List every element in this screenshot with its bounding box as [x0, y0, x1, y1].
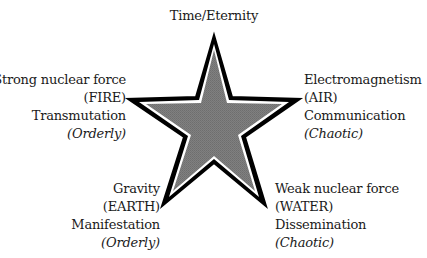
- upper-right-point-label: Electromagnetism (AIR) Communication (Ch…: [304, 71, 422, 143]
- element-text: (FIRE): [0, 89, 126, 107]
- force-text: Electromagnetism: [304, 71, 422, 89]
- quality-text: (Chaotic): [304, 125, 422, 143]
- force-text: Strong nuclear force: [0, 71, 126, 89]
- quality-text: (Chaotic): [275, 234, 399, 252]
- process-text: Communication: [304, 107, 422, 125]
- quality-text: (Orderly): [71, 234, 160, 252]
- element-text: (WATER): [275, 198, 399, 216]
- force-text: Gravity: [71, 180, 160, 198]
- lower-left-point-label: Gravity (EARTH) Manifestation (Orderly): [71, 180, 160, 252]
- process-text: Manifestation: [71, 216, 160, 234]
- lower-right-point-label: Weak nuclear force (WATER) Dissemination…: [275, 180, 399, 252]
- upper-left-point-label: Strong nuclear force (FIRE) Transmutatio…: [0, 71, 126, 143]
- force-text: Weak nuclear force: [275, 180, 399, 198]
- time-eternity-text: Time/Eternity: [0, 7, 427, 25]
- element-text: (EARTH): [71, 198, 160, 216]
- process-text: Dissemination: [275, 216, 399, 234]
- top-point-label: Time/Eternity: [0, 7, 427, 25]
- element-text: (AIR): [304, 89, 422, 107]
- process-text: Transmutation: [0, 107, 126, 125]
- quality-text: (Orderly): [0, 125, 126, 143]
